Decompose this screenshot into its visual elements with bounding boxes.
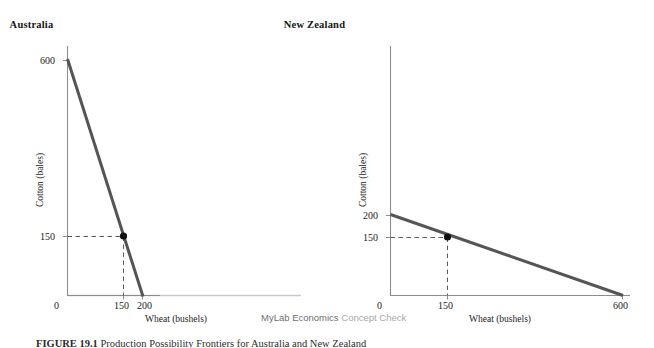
plot-area-new-zealand bbox=[327, 0, 654, 348]
y-tick-label-150-australia: 150 bbox=[40, 231, 55, 242]
mylab-economics-concept-check-link[interactable]: MyLab Economics Concept Check bbox=[261, 312, 406, 323]
plot-area-australia bbox=[0, 0, 327, 348]
y-axis-title-new-zealand: Cotton (bales) bbox=[358, 153, 368, 207]
x-tick-label-150-australia: 150 bbox=[114, 300, 129, 311]
x-tick-label-0-australia: 0 bbox=[54, 300, 59, 311]
mylab-concept-check-label: Concept Check bbox=[341, 312, 406, 323]
y-tick-label-200-new-zealand: 200 bbox=[363, 210, 378, 221]
production-point-australia bbox=[120, 232, 127, 239]
figure-caption-text: Production Possibility Frontiers for Aus… bbox=[100, 338, 366, 348]
chart-panel-new-zealand: New Zealand 200 150 0 150 600 Cotton ( bbox=[327, 0, 654, 348]
ppf-line-new-zealand bbox=[391, 215, 624, 296]
chart-panel-australia: Australia 600 150 0 150 200 bbox=[0, 0, 327, 348]
figure-caption-number: FIGURE 19.1 bbox=[36, 338, 98, 348]
x-axis-title-new-zealand: Wheat (bushels) bbox=[469, 314, 531, 324]
figure-ppf-comparison: Australia 600 150 0 150 200 bbox=[0, 0, 654, 348]
y-tick-label-150-new-zealand: 150 bbox=[363, 232, 378, 243]
x-axis-title-australia: Wheat (bushels) bbox=[145, 314, 207, 324]
y-tick-label-600-australia: 600 bbox=[40, 55, 55, 66]
x-tick-label-600-new-zealand: 600 bbox=[613, 300, 628, 311]
x-tick-label-200-australia: 200 bbox=[137, 300, 152, 311]
y-axis-title-australia: Cotton (bales) bbox=[35, 153, 45, 207]
x-tick-label-150-new-zealand: 150 bbox=[438, 300, 453, 311]
mylab-brand-label: MyLab Economics bbox=[261, 312, 339, 323]
ppf-line-australia bbox=[68, 59, 144, 297]
figure-caption: FIGURE 19.1 Production Possibility Front… bbox=[36, 338, 636, 348]
x-tick-label-0-new-zealand: 0 bbox=[377, 300, 382, 311]
production-point-new-zealand bbox=[444, 233, 451, 240]
